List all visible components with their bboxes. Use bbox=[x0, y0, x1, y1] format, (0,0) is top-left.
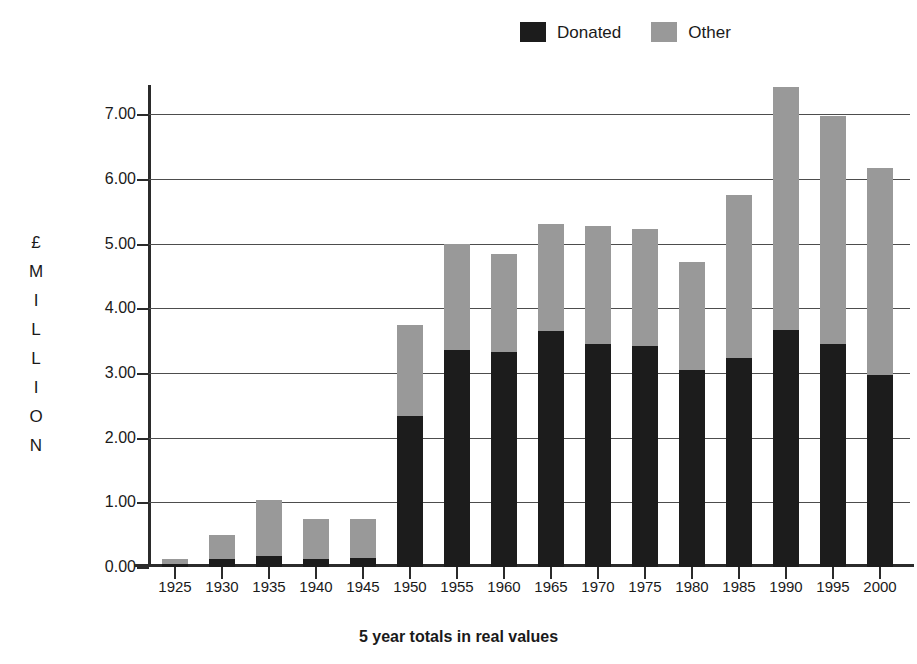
y-axis-tick-label: 2.00 bbox=[105, 429, 136, 447]
bar-group[interactable] bbox=[726, 195, 752, 567]
y-axis-title-letter: L bbox=[31, 344, 40, 373]
y-axis-tick-label: 3.00 bbox=[105, 364, 136, 382]
x-axis-tick-label: 1980 bbox=[675, 578, 708, 595]
plot-area bbox=[148, 85, 910, 567]
bar-group[interactable] bbox=[820, 116, 846, 567]
bar-segment-other[interactable] bbox=[444, 244, 470, 350]
bar-segment-donated[interactable] bbox=[632, 346, 658, 567]
bar-group[interactable] bbox=[773, 87, 799, 567]
x-axis-tick-label: 1970 bbox=[581, 578, 614, 595]
bar-segment-other[interactable] bbox=[350, 519, 376, 558]
x-axis-tick-label: 1985 bbox=[722, 578, 755, 595]
chart-legend: Donated Other bbox=[520, 22, 731, 42]
y-axis-tick-label: 6.00 bbox=[105, 170, 136, 188]
bar-segment-other[interactable] bbox=[820, 116, 846, 344]
bar-group[interactable] bbox=[538, 224, 564, 567]
x-axis-tick-label: 1955 bbox=[440, 578, 473, 595]
x-axis-tick-label: 1965 bbox=[534, 578, 567, 595]
bar-segment-other[interactable] bbox=[679, 262, 705, 370]
bar-group[interactable] bbox=[679, 262, 705, 567]
bar-group[interactable] bbox=[585, 226, 611, 567]
y-axis-title-letter: I bbox=[34, 373, 39, 402]
bar-segment-other[interactable] bbox=[726, 195, 752, 358]
y-axis-tick-label: 5.00 bbox=[105, 235, 136, 253]
bar-group[interactable] bbox=[867, 168, 893, 567]
bar-group[interactable] bbox=[256, 500, 282, 567]
x-axis-title: 5 year totals in real values bbox=[0, 628, 917, 646]
bar-segment-other[interactable] bbox=[397, 325, 423, 416]
bar-segment-other[interactable] bbox=[632, 229, 658, 347]
legend-item-other: Other bbox=[651, 22, 731, 42]
bar-segment-donated[interactable] bbox=[679, 370, 705, 567]
bar-group[interactable] bbox=[162, 559, 188, 567]
x-axis-tick-label: 1945 bbox=[346, 578, 379, 595]
y-axis-tick-label: 1.00 bbox=[105, 493, 136, 511]
bar-segment-other[interactable] bbox=[867, 168, 893, 375]
x-axis-tick-label: 1940 bbox=[299, 578, 332, 595]
bar-group[interactable] bbox=[491, 254, 517, 567]
legend-label-donated: Donated bbox=[557, 24, 621, 41]
y-axis-title-letter: O bbox=[29, 402, 42, 431]
bar-segment-donated[interactable] bbox=[397, 416, 423, 567]
x-axis-tick-label: 1950 bbox=[393, 578, 426, 595]
x-axis-tick-label: 1925 bbox=[158, 578, 191, 595]
bar-segment-donated[interactable] bbox=[820, 344, 846, 567]
bar-group[interactable] bbox=[632, 229, 658, 567]
bar-group[interactable] bbox=[209, 535, 235, 567]
y-axis-tick-label: 4.00 bbox=[105, 299, 136, 317]
bar-segment-other[interactable] bbox=[209, 535, 235, 560]
y-axis-title-letter: L bbox=[31, 315, 40, 344]
bar-segment-donated[interactable] bbox=[867, 375, 893, 567]
x-axis-tick-label: 2000 bbox=[863, 578, 896, 595]
x-axis-tick-label: 1960 bbox=[487, 578, 520, 595]
x-axis-tick-label: 1930 bbox=[205, 578, 238, 595]
bar-segment-donated[interactable] bbox=[209, 559, 235, 567]
y-axis-tick-labels: 0.001.002.003.004.005.006.007.00 bbox=[60, 85, 136, 567]
bar-segment-other[interactable] bbox=[585, 226, 611, 344]
bar-segment-donated[interactable] bbox=[303, 559, 329, 567]
bar-series-container bbox=[148, 85, 910, 567]
bar-segment-donated[interactable] bbox=[444, 350, 470, 567]
bar-group[interactable] bbox=[303, 518, 329, 567]
legend-label-other: Other bbox=[688, 24, 731, 41]
bar-segment-donated[interactable] bbox=[726, 358, 752, 567]
y-axis-title: £MILLION bbox=[22, 228, 50, 460]
bar-segment-donated[interactable] bbox=[538, 331, 564, 567]
bar-segment-other[interactable] bbox=[773, 87, 799, 330]
bar-group[interactable] bbox=[444, 244, 470, 567]
x-axis-tick-label: 1975 bbox=[628, 578, 661, 595]
x-axis-tick-label: 1995 bbox=[816, 578, 849, 595]
y-axis-tick-label: 0.00 bbox=[105, 558, 136, 576]
bar-segment-other[interactable] bbox=[538, 224, 564, 331]
bar-chart: Donated Other £MILLION 0.001.002.003.004… bbox=[0, 0, 917, 664]
bar-group[interactable] bbox=[397, 325, 423, 567]
bar-segment-other[interactable] bbox=[303, 519, 329, 560]
bar-segment-donated[interactable] bbox=[585, 344, 611, 567]
x-axis-tick-label: 1935 bbox=[252, 578, 285, 595]
y-axis-title-letter: N bbox=[30, 431, 42, 460]
legend-swatch-other bbox=[651, 22, 677, 42]
y-axis-tick-label: 7.00 bbox=[105, 105, 136, 123]
legend-item-donated: Donated bbox=[520, 22, 621, 42]
y-axis-tick bbox=[137, 567, 149, 569]
legend-swatch-donated bbox=[520, 22, 546, 42]
bar-segment-donated[interactable] bbox=[773, 330, 799, 567]
bar-segment-other[interactable] bbox=[491, 254, 517, 352]
y-axis-title-letter: M bbox=[29, 257, 43, 286]
y-axis-title-letter: I bbox=[34, 286, 39, 315]
bar-segment-donated[interactable] bbox=[350, 558, 376, 567]
bar-segment-donated[interactable] bbox=[256, 556, 282, 567]
bar-group[interactable] bbox=[350, 518, 376, 567]
bar-segment-donated[interactable] bbox=[491, 352, 517, 567]
y-axis-title-letter: £ bbox=[31, 228, 40, 257]
bar-segment-other[interactable] bbox=[256, 500, 282, 556]
x-axis-tick-label: 1990 bbox=[769, 578, 802, 595]
